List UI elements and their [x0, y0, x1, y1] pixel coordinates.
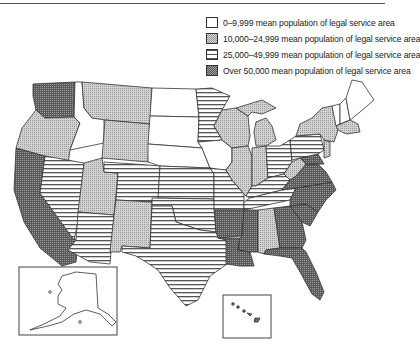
legend-label: 10,000–24,999 mean population of legal s…: [223, 34, 420, 44]
state-new-jersey: [324, 140, 330, 158]
hawaii-inset-frame: [223, 295, 271, 338]
alaska-island: [49, 291, 52, 294]
state-south-dakota: [148, 116, 202, 148]
alaska-island: [79, 321, 82, 324]
state-maine: [346, 80, 374, 120]
state-hawaii: [232, 303, 260, 322]
state-north-dakota: [150, 88, 199, 117]
state-alaska: [30, 272, 116, 330]
legend-label: 0–9,999 mean population of legal service…: [223, 18, 395, 28]
state-nebraska: [148, 144, 210, 168]
legend-swatch-white: [206, 17, 218, 28]
legend-item-1: 10,000–24,999 mean population of legal s…: [206, 32, 420, 45]
legend-swatch-dark: [206, 65, 218, 76]
state-arkansas: [214, 210, 244, 238]
state-kansas: [158, 166, 214, 199]
legend: 0–9,999 mean population of legal service…: [206, 16, 420, 80]
legend-label: Over 50,000 mean population of legal ser…: [223, 66, 411, 76]
state-wyoming: [102, 120, 150, 162]
legend-label: 25,000–49,999 mean population of legal s…: [223, 50, 420, 60]
legend-item-0: 0–9,999 mean population of legal service…: [206, 16, 420, 29]
state-montana: [82, 82, 152, 124]
legend-swatch-dotted: [206, 33, 218, 44]
legend-item-3: Over 50,000 mean population of legal ser…: [206, 64, 420, 77]
state-florida: [264, 248, 324, 300]
legend-swatch-striped: [206, 49, 218, 60]
legend-item-2: 25,000–49,999 mean population of legal s…: [206, 48, 420, 61]
state-new-mexico: [110, 200, 152, 252]
